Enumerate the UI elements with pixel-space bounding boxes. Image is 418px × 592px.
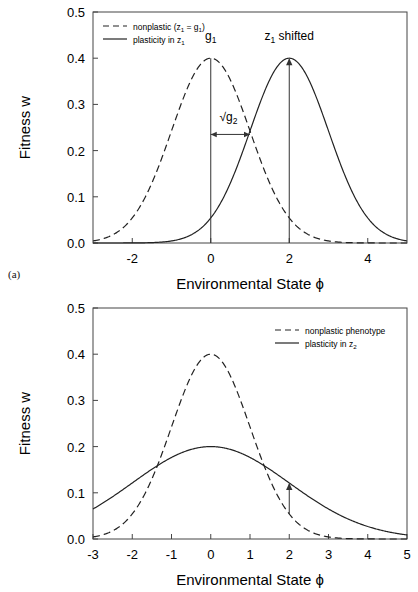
x-tick-label: 2	[286, 547, 293, 562]
curve-1	[93, 58, 407, 243]
x-tick-label: 0	[207, 547, 214, 562]
y-tick-label: 0.2	[67, 440, 85, 455]
annotation-label-g1: g1	[205, 29, 217, 45]
y-tick-label: 0.1	[67, 190, 85, 205]
y-tick-label: 0.5	[67, 301, 85, 316]
x-axis-title: Environmental State ϕ	[176, 275, 324, 292]
x-tick-label: 0	[207, 251, 214, 266]
y-axis-title: Fitness w	[16, 96, 33, 160]
curve-1	[93, 354, 407, 539]
x-tick-label: 4	[364, 251, 371, 266]
x-tick-label: -1	[166, 547, 178, 562]
y-tick-label: 0.0	[67, 236, 85, 251]
curve-2	[93, 58, 407, 243]
legend-label: plasticity in z1	[133, 35, 185, 46]
y-tick-label: 0.5	[67, 5, 85, 20]
y-tick-label: 0.3	[67, 97, 85, 112]
legend-label: nonplastic (z1 = g1)	[133, 22, 205, 33]
annotation-arrowhead-left	[211, 132, 217, 138]
y-tick-label: 0.4	[67, 347, 85, 362]
panel-a-tag: (a)	[8, 268, 20, 280]
plot-frame	[93, 308, 407, 539]
panel-a: 0.00.10.20.30.40.5-2024Environmental Sta…	[0, 0, 418, 296]
x-tick-label: 2	[286, 251, 293, 266]
y-tick-label: 0.3	[67, 393, 85, 408]
x-tick-label: 1	[246, 547, 253, 562]
y-tick-label: 0.4	[67, 51, 85, 66]
curve-2	[93, 447, 407, 535]
y-tick-label: 0.2	[67, 144, 85, 159]
x-tick-label: 4	[364, 547, 371, 562]
panel-b-plot: 0.00.10.20.30.40.5-3-2-1012345Environmen…	[0, 296, 418, 592]
y-tick-label: 0.1	[67, 486, 85, 501]
x-tick-label: 5	[403, 547, 410, 562]
panel-b: 0.00.10.20.30.40.5-3-2-1012345Environmen…	[0, 296, 418, 592]
panel-a-plot: 0.00.10.20.30.40.5-2024Environmental Sta…	[0, 0, 418, 296]
annotation-label-sqrt-g2: √g2	[219, 110, 237, 126]
y-axis-title: Fitness w	[16, 392, 33, 456]
legend-label: plasticity in z2	[305, 339, 357, 350]
annotation-arrowhead	[286, 58, 292, 65]
x-tick-label: -2	[126, 251, 138, 266]
x-tick-label: -3	[87, 547, 99, 562]
x-tick-label: -2	[126, 547, 138, 562]
annotation-label-z1-shifted: z1 shifted	[265, 29, 314, 45]
x-axis-title: Environmental State ϕ	[176, 571, 324, 588]
plot-frame	[93, 12, 407, 243]
y-tick-label: 0.0	[67, 532, 85, 547]
legend-label: nonplastic phenotype	[305, 326, 386, 336]
x-tick-label: 3	[325, 547, 332, 562]
